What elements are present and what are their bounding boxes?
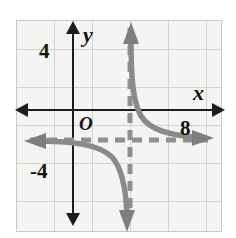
graph-figure: 4 -4 8 O y x — [0, 0, 236, 238]
y-tick-label-neg4: -4 — [30, 161, 48, 182]
x-axis-label: x — [193, 82, 204, 104]
y-tick-label-4: 4 — [39, 41, 50, 62]
curve-overlay — [0, 0, 236, 238]
x-tick-label-8: 8 — [180, 118, 191, 139]
origin-label: O — [79, 114, 93, 133]
y-axis-label: y — [83, 24, 93, 46]
